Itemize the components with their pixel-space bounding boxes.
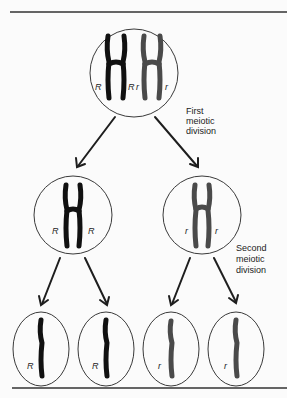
chromosome-R <box>105 320 107 376</box>
allele-label: r <box>158 361 162 371</box>
parent-cell: R R r r <box>90 29 178 117</box>
svg-text:First: First <box>186 106 204 116</box>
chromosome-r-centromere <box>145 62 159 64</box>
allele-label: r <box>224 361 228 371</box>
allele-label: R <box>27 361 34 371</box>
svg-text:meiotic: meiotic <box>236 254 265 264</box>
chromosome-r-right-chromatid <box>159 36 161 98</box>
allele-label: r <box>185 226 189 236</box>
allele-label: r <box>165 82 169 92</box>
chromosome-r <box>235 320 237 376</box>
arrow-second-division-2 <box>85 258 109 305</box>
svg-text:division: division <box>186 126 216 136</box>
svg-text:meiotic: meiotic <box>186 116 215 126</box>
allele-label: R <box>52 226 59 236</box>
allele-label: r <box>215 226 219 236</box>
second-division-label: Second meiotic division <box>236 243 267 275</box>
daughter-cell-r: r r <box>163 176 241 254</box>
gamete-cell-1: R <box>13 312 69 386</box>
chromosome-R-centromere <box>109 62 123 64</box>
allele-label: R <box>88 226 95 236</box>
meiosis-diagram: R R r r First meiotic division R R r r S <box>0 0 287 398</box>
allele-label: R <box>92 361 99 371</box>
first-division-label: First meiotic division <box>186 106 216 136</box>
allele-label: r <box>136 82 140 92</box>
chromosome-r <box>170 321 172 376</box>
arrow-first-division-left <box>76 117 115 167</box>
arrow-second-division-3 <box>169 258 190 305</box>
gamete-cell-2: R <box>78 312 134 386</box>
chromosome-r-left-chromatid <box>194 185 196 246</box>
chromosome-R-right-chromatid <box>79 185 81 246</box>
arrow-second-division-1 <box>39 258 60 305</box>
daughter-cell-R: R R <box>34 176 112 254</box>
chromosome-r-right-chromatid <box>208 185 210 246</box>
allele-label: R <box>95 82 102 92</box>
arrow-second-division-4 <box>214 258 238 303</box>
chromosome-R-left-chromatid <box>65 185 67 246</box>
gamete-cell-3: r <box>143 312 199 386</box>
chromosome-r-centromere <box>196 207 208 209</box>
chromosome-R-left-chromatid <box>107 36 109 98</box>
chromosome-R-right-chromatid <box>123 36 125 98</box>
chromosome-R-centromere <box>67 209 79 211</box>
gamete-cell-4: r <box>208 312 264 386</box>
allele-label: R <box>128 82 135 92</box>
chromosome-r-left-chromatid <box>143 36 145 98</box>
chromosome-R <box>40 320 42 376</box>
svg-text:division: division <box>236 265 266 275</box>
svg-text:Second: Second <box>236 243 267 253</box>
